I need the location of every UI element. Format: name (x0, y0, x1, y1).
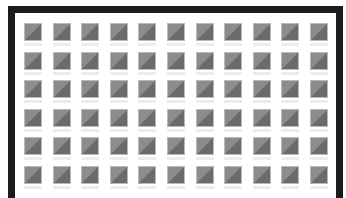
diagonal-tile-icon (167, 137, 185, 155)
diagonal-tile-icon (53, 80, 71, 98)
tile-shadow (53, 43, 71, 46)
tile-shadow (138, 157, 156, 160)
diagonal-tile-icon (167, 166, 185, 184)
diagonal-tile-icon (138, 109, 156, 127)
tile-shadow (281, 129, 299, 132)
diagonal-tile-icon (110, 23, 128, 41)
diagonal-tile-icon (281, 80, 299, 98)
diagonal-tile-icon (253, 109, 271, 127)
tile-shadow (24, 186, 42, 189)
diagonal-tile-icon (110, 52, 128, 70)
diagonal-tile-icon (281, 137, 299, 155)
tile-shadow (24, 129, 42, 132)
tile-shadow (196, 100, 214, 103)
tile-shadow (53, 72, 71, 75)
tile-shadow (24, 43, 42, 46)
tile-shadow (110, 186, 128, 189)
diagonal-tile-icon (81, 23, 99, 41)
tile-shadow (196, 129, 214, 132)
diagonal-tile-icon (196, 52, 214, 70)
diagonal-tile-icon (196, 80, 214, 98)
tile-shadow (253, 100, 271, 103)
diagonal-tile-icon (138, 80, 156, 98)
diagonal-tile-icon (196, 166, 214, 184)
tile-shadow (310, 129, 328, 132)
diagonal-tile-icon (253, 137, 271, 155)
tile-shadow (81, 157, 99, 160)
tile-shadow (281, 72, 299, 75)
diagonal-tile-icon (224, 109, 242, 127)
diagonal-tile-icon (81, 166, 99, 184)
diagonal-tile-icon (310, 80, 328, 98)
diagonal-tile-icon (196, 109, 214, 127)
diagonal-tile-icon (81, 52, 99, 70)
diagonal-tile-icon (167, 52, 185, 70)
tile-shadow (81, 186, 99, 189)
tile-shadow (224, 129, 242, 132)
tile-shadow (167, 129, 185, 132)
diagonal-tile-icon (81, 80, 99, 98)
tile-shadow (53, 100, 71, 103)
tile-shadow (53, 129, 71, 132)
tile-shadow (110, 72, 128, 75)
diagonal-tile-icon (110, 109, 128, 127)
tile-shadow (224, 157, 242, 160)
tile-shadow (310, 186, 328, 189)
diagonal-tile-icon (310, 52, 328, 70)
diagonal-tile-icon (224, 52, 242, 70)
tile-shadow (281, 157, 299, 160)
diagonal-tile-icon (81, 109, 99, 127)
tile-shadow (110, 100, 128, 103)
tile-shadow (138, 43, 156, 46)
diagonal-tile-icon (24, 80, 42, 98)
tile-shadow (81, 72, 99, 75)
tile-shadow (24, 72, 42, 75)
tile-shadow (167, 43, 185, 46)
tile-shadow (196, 186, 214, 189)
diagonal-tile-icon (138, 137, 156, 155)
tile-shadow (167, 100, 185, 103)
diagonal-tile-icon (53, 52, 71, 70)
tile-shadow (138, 72, 156, 75)
tile-shadow (24, 100, 42, 103)
tile-shadow (281, 100, 299, 103)
diagonal-tile-icon (138, 52, 156, 70)
diagonal-tile-icon (253, 166, 271, 184)
tile-shadow (196, 43, 214, 46)
tile-shadow (110, 157, 128, 160)
tile-shadow (138, 129, 156, 132)
diagonal-tile-icon (53, 166, 71, 184)
tile-shadow (81, 43, 99, 46)
tile-shadow (167, 157, 185, 160)
diagonal-tile-icon (138, 166, 156, 184)
tile-shadow (310, 157, 328, 160)
tile-shadow (224, 43, 242, 46)
diagonal-tile-icon (53, 23, 71, 41)
diagonal-tile-icon (167, 109, 185, 127)
diagonal-tile-icon (253, 23, 271, 41)
diagonal-tile-icon (196, 137, 214, 155)
tile-shadow (253, 129, 271, 132)
diagonal-tile-icon (281, 109, 299, 127)
tile-shadow (253, 72, 271, 75)
diagonal-tile-icon (110, 166, 128, 184)
diagonal-tile-icon (253, 80, 271, 98)
tile-shadow (224, 72, 242, 75)
tile-shadow (53, 186, 71, 189)
tile-shadow (167, 186, 185, 189)
tile-shadow (224, 100, 242, 103)
tile-shadow (138, 186, 156, 189)
tile-shadow (81, 129, 99, 132)
diagonal-tile-icon (110, 137, 128, 155)
diagonal-tile-icon (53, 137, 71, 155)
diagonal-tile-icon (281, 166, 299, 184)
tile-shadow (281, 43, 299, 46)
diagonal-tile-icon (224, 23, 242, 41)
tile-shadow (253, 157, 271, 160)
diagonal-tile-icon (167, 80, 185, 98)
diagonal-tile-icon (138, 23, 156, 41)
diagonal-tile-icon (81, 137, 99, 155)
diagonal-tile-icon (281, 52, 299, 70)
diagonal-tile-icon (310, 137, 328, 155)
tile-shadow (196, 72, 214, 75)
